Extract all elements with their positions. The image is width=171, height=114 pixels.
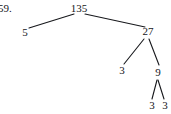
factor-tree-edges xyxy=(0,0,171,114)
tree-edge-n9-n3c xyxy=(158,80,164,99)
tree-node-3-left: 3 xyxy=(119,65,125,76)
tree-edge-n135-n27 xyxy=(85,14,145,27)
tree-node-root-135: 135 xyxy=(71,3,88,14)
tree-edge-n27-n3a xyxy=(124,39,144,64)
tree-edge-n9-n3b xyxy=(152,80,157,99)
tree-edge-n27-n9 xyxy=(149,39,159,65)
tree-node-3-leaf-a: 3 xyxy=(149,100,155,111)
tree-edge-n135-n5 xyxy=(29,14,74,28)
tree-node-9: 9 xyxy=(155,67,161,78)
tree-node-3-leaf-b: 3 xyxy=(162,100,168,111)
tree-node-27: 27 xyxy=(143,26,154,37)
factor-tree-figure: 59. 135 5 27 3 9 3 3 xyxy=(0,0,171,114)
tree-node-5: 5 xyxy=(22,27,28,38)
